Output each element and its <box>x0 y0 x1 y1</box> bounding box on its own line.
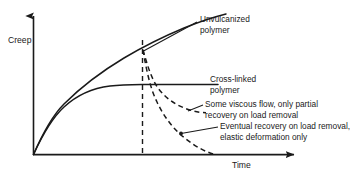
leader-dot-eventual-recovery <box>179 132 183 136</box>
curve-full-elastic-recovery <box>143 50 214 154</box>
leader-eventual-recovery <box>181 127 218 134</box>
curve-label-unvulcanized: Unvulcanized polymer <box>200 14 250 35</box>
annotation-viscous-flow: Some viscous flow, only partial recovery… <box>205 99 318 120</box>
viscous-flow-line1: Some viscous flow, only partial <box>205 99 318 109</box>
x-axis-label: Time <box>232 160 251 170</box>
y-axis-label: Creep <box>8 35 32 45</box>
creep-vs-time-chart: Creep Time Unvulcanized polymer Cross-li… <box>0 0 361 173</box>
unvulcanized-label-line1: Unvulcanized <box>200 14 250 24</box>
curve-crosslinked-polymer <box>34 85 219 155</box>
leader-viscous-flow <box>188 105 203 111</box>
creep-diagram-figure: Creep Time Unvulcanized polymer Cross-li… <box>0 0 361 173</box>
leader-unvulcanized <box>144 22 198 51</box>
eventual-recovery-line2: elastic deformation only <box>220 132 308 142</box>
annotation-eventual-recovery: Eventual recovery on load removal, elast… <box>220 121 350 142</box>
viscous-flow-line2: recovery on load removal <box>205 110 298 120</box>
crosslinked-label-line2: polymer <box>210 85 240 95</box>
curve-partial-recovery <box>143 50 206 113</box>
curve-label-crosslinked: Cross-linked polymer <box>210 74 256 95</box>
unvulcanized-label-line2: polymer <box>200 25 230 35</box>
eventual-recovery-line1: Eventual recovery on load removal, <box>220 121 350 131</box>
crosslinked-label-line1: Cross-linked <box>210 74 256 84</box>
